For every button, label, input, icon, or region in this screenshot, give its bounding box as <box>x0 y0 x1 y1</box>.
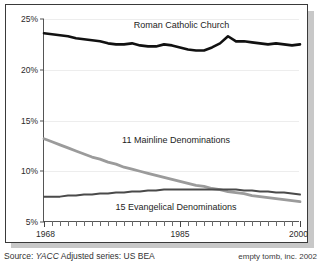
source-suffix: Adjusted series: US BEA <box>61 251 155 261</box>
y-tick-label: 15% <box>21 116 38 126</box>
y-tick-label: 25% <box>21 14 38 24</box>
source-note: Source: YACC Adjusted series: US BEA <box>4 251 155 261</box>
series-label: 15 Evangelical Denominations <box>115 202 236 212</box>
series-label: 11 Mainline Denominations <box>122 135 230 145</box>
x-tick-mark <box>300 221 301 227</box>
y-tick-label: 10% <box>21 166 38 176</box>
source-prefix: Source: <box>4 251 33 261</box>
chart-frame: 25%20%15%10%5% 196819852000 Roman Cathol… <box>5 4 308 243</box>
y-tick-label: 5% <box>26 217 38 227</box>
data-lines-svg <box>44 19 300 222</box>
x-tick-label: 2000 <box>289 229 308 239</box>
chart-screenshot: 25%20%15%10%5% 196819852000 Roman Cathol… <box>0 0 321 269</box>
source-series-name: YACC <box>36 251 59 261</box>
chart-footer: Source: YACC Adjusted series: US BEA emp… <box>4 251 317 261</box>
series-label: Roman Catholic Church <box>134 20 230 30</box>
y-tick-label: 20% <box>21 65 38 75</box>
x-tick-label: 1968 <box>36 229 55 239</box>
series-line <box>44 33 300 50</box>
plot-area: 25%20%15%10%5% 196819852000 Roman Cathol… <box>43 19 299 222</box>
credit-note: empty tomb, inc. 2002 <box>238 252 317 261</box>
x-tick-label: 1985 <box>171 229 190 239</box>
